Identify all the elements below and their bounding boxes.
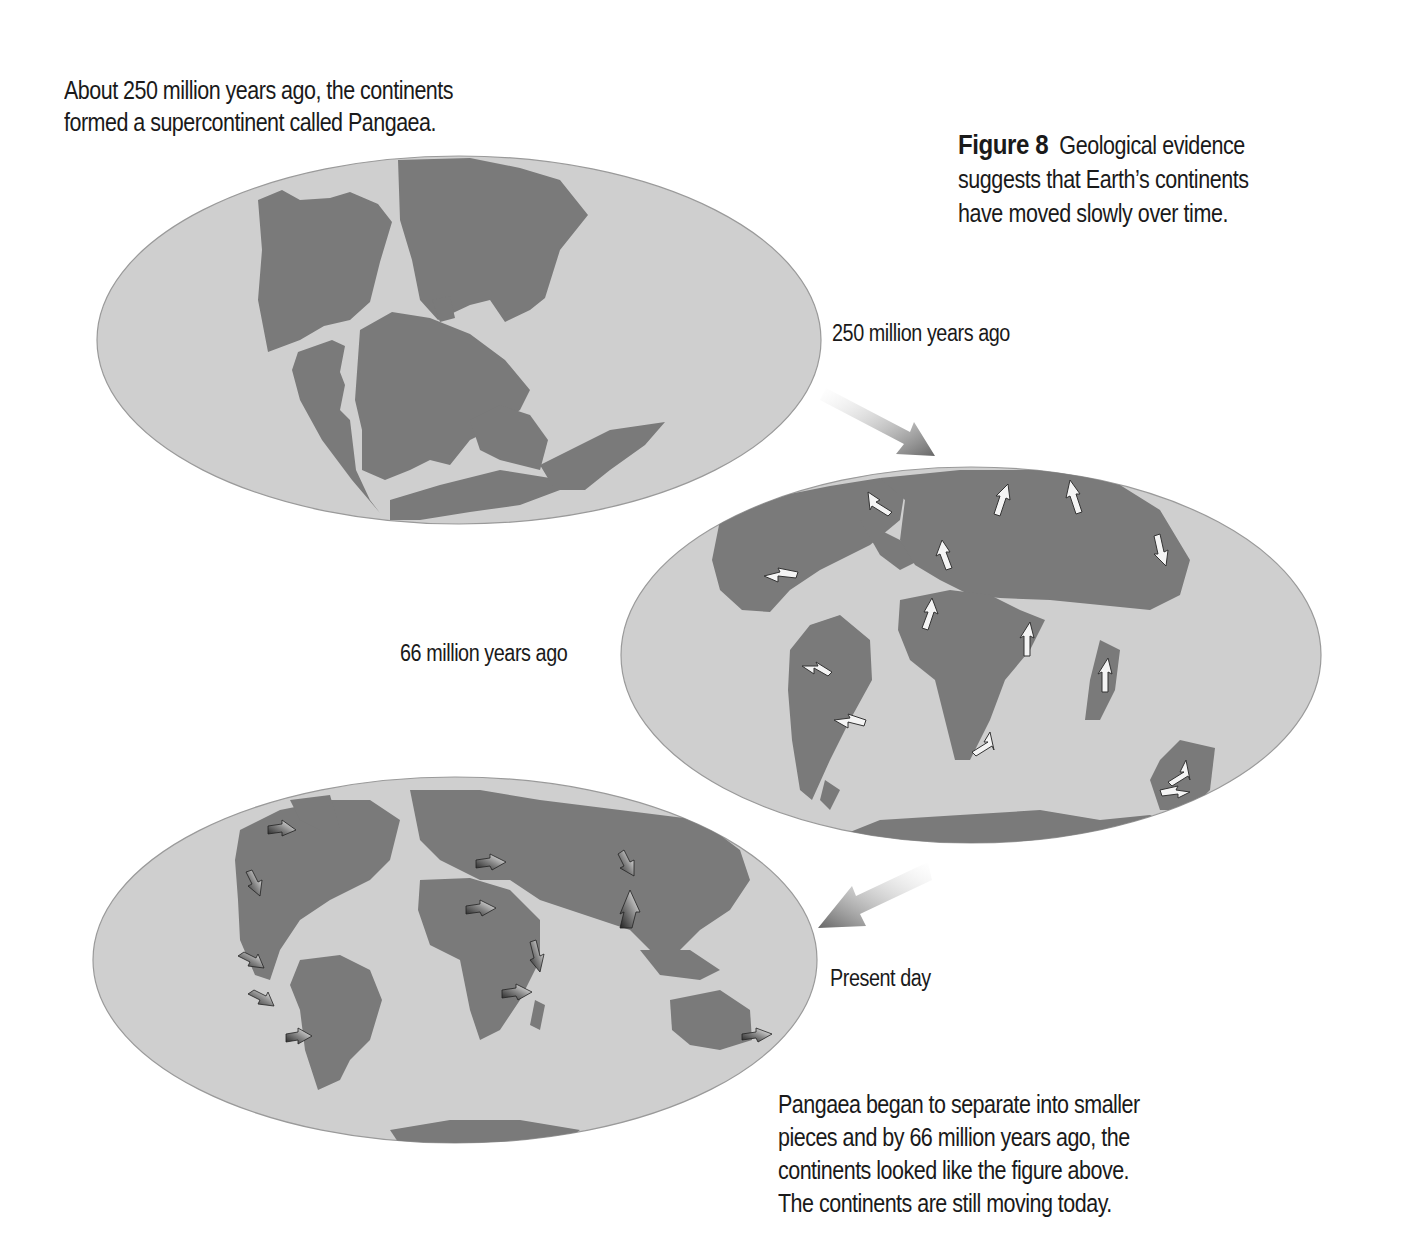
label-present-day: Present day — [830, 965, 931, 992]
closing-text: Pangaea began to separate into smaller p… — [778, 1088, 1140, 1220]
label-250-mya: 250 million years ago — [832, 320, 1010, 347]
label-66-mya: 66 million years ago — [400, 640, 567, 667]
figure-maps — [0, 0, 1408, 1253]
transition-arrow-1 — [820, 388, 935, 456]
map-66-mya — [621, 467, 1321, 850]
map-pangaea — [97, 156, 821, 524]
closing-line-1: Pangaea began to separate into smaller — [778, 1088, 1140, 1121]
closing-line-2: pieces and by 66 million years ago, the — [778, 1121, 1140, 1154]
closing-line-3: continents looked like the figure above. — [778, 1154, 1140, 1187]
closing-line-4: The continents are still moving today. — [778, 1187, 1140, 1220]
transition-arrow-2 — [818, 862, 932, 928]
map-present-day — [93, 777, 817, 1145]
